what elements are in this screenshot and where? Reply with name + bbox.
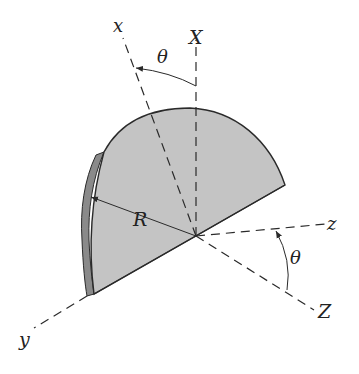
label-y: y: [18, 328, 30, 350]
axis-z: [196, 224, 326, 236]
label-X: X: [187, 26, 204, 48]
angle-arc-right: [276, 231, 288, 290]
label-Z: Z: [317, 300, 332, 322]
label-theta-top: θ: [157, 46, 168, 67]
label-z: z: [326, 213, 337, 234]
label-R: R: [132, 208, 147, 230]
label-theta-right: θ: [290, 247, 301, 268]
label-x: x: [113, 15, 123, 36]
angle-arc-top: [136, 68, 196, 86]
diagram-canvas: x X θ R y z θ Z: [0, 0, 359, 374]
axis-y: [34, 296, 87, 328]
